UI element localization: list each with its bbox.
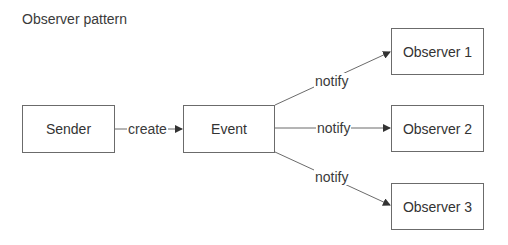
node-observer-2: Observer 2 <box>391 105 484 152</box>
edge-label-notify-3: notify <box>314 169 349 185</box>
node-event: Event <box>183 105 275 153</box>
edge-label-notify-2: notify <box>316 120 351 136</box>
node-sender: Sender <box>22 105 115 153</box>
edge-label-notify-1: notify <box>314 73 349 89</box>
edge-label-create: create <box>127 121 168 137</box>
node-observer-1: Observer 1 <box>391 28 484 75</box>
node-observer-3: Observer 3 <box>391 183 484 230</box>
